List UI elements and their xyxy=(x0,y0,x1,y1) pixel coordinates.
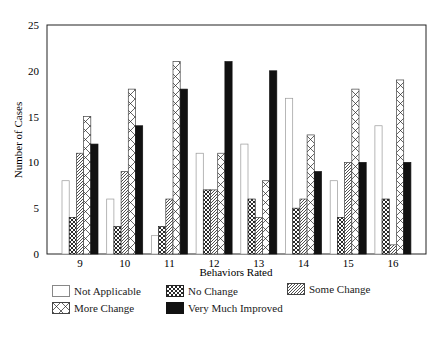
bar xyxy=(107,199,114,254)
bar xyxy=(330,181,337,254)
bar xyxy=(121,172,128,254)
bar xyxy=(166,199,173,254)
bar xyxy=(345,162,352,254)
bar xyxy=(286,98,293,254)
legend-label: Not Applicable xyxy=(74,285,141,297)
bar xyxy=(218,153,225,254)
legend-item-no-change: No Change xyxy=(166,285,238,297)
bar xyxy=(359,162,366,254)
bar xyxy=(151,236,158,254)
bar xyxy=(241,144,248,254)
bar xyxy=(180,89,187,254)
x-tick-label: 9 xyxy=(77,257,83,269)
legend-label: More Change xyxy=(74,302,134,314)
legend: Not Applicable No Change Some Change Mor… xyxy=(52,285,392,325)
plot-frame xyxy=(47,25,426,254)
legend-item-very-much-improved: Very Much Improved xyxy=(166,302,283,314)
bar xyxy=(300,199,307,254)
open-crosshatch-swatch-icon xyxy=(52,302,70,314)
black-swatch-icon xyxy=(166,302,184,314)
bar xyxy=(173,62,180,254)
white-swatch-icon xyxy=(52,285,70,297)
bar xyxy=(375,126,382,254)
y-axis-label: Number of Cases xyxy=(12,102,24,178)
legend-item-more-change: More Change xyxy=(52,302,134,314)
bar xyxy=(307,135,314,254)
bar-chart: 0510152025 910111213141516 Number of Cas… xyxy=(0,0,445,285)
x-tick-label: 14 xyxy=(298,257,310,269)
y-tick-label: 15 xyxy=(28,111,40,123)
bar xyxy=(69,217,76,254)
bar xyxy=(262,181,269,254)
bar xyxy=(352,89,359,254)
bar xyxy=(225,62,232,254)
bar xyxy=(136,126,143,254)
bar xyxy=(76,153,83,254)
bar xyxy=(397,80,404,254)
bar xyxy=(159,227,166,254)
diagonal-swatch-icon xyxy=(287,283,305,295)
bar xyxy=(314,172,321,254)
bars xyxy=(62,62,411,254)
y-tick-label: 0 xyxy=(34,248,40,260)
x-tick-label: 11 xyxy=(164,257,175,269)
y-tick-label: 5 xyxy=(34,202,40,214)
y-tick-label: 10 xyxy=(28,156,40,168)
bar xyxy=(84,117,91,254)
bar xyxy=(211,190,218,254)
bar xyxy=(196,153,203,254)
y-tick-label: 20 xyxy=(28,65,40,77)
bar xyxy=(91,144,98,254)
bar xyxy=(255,217,262,254)
crosshatch-swatch-icon xyxy=(166,285,184,297)
legend-label: No Change xyxy=(188,285,238,297)
bar xyxy=(203,190,210,254)
x-tick-label: 16 xyxy=(387,257,399,269)
bar xyxy=(382,199,389,254)
legend-label: Very Much Improved xyxy=(188,302,283,314)
legend-item-not-applicable: Not Applicable xyxy=(52,285,141,297)
bar xyxy=(114,227,121,254)
bar xyxy=(337,217,344,254)
y-tick-label: 25 xyxy=(28,19,40,31)
x-tick-label: 15 xyxy=(343,257,355,269)
bar xyxy=(404,162,411,254)
bar xyxy=(128,89,135,254)
y-axis-ticks: 0510152025 xyxy=(28,19,40,260)
x-axis-label: Behaviors Rated xyxy=(199,266,273,278)
bar xyxy=(62,181,69,254)
bar xyxy=(293,208,300,254)
x-tick-label: 10 xyxy=(119,257,131,269)
bar xyxy=(248,199,255,254)
bar xyxy=(389,245,396,254)
legend-label: Some Change xyxy=(309,283,370,295)
legend-item-some-change: Some Change xyxy=(287,283,370,295)
bar xyxy=(270,71,277,254)
